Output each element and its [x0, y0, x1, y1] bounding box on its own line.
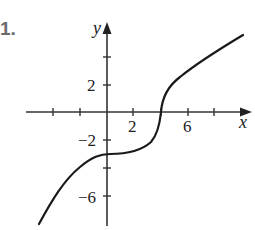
y-tick-label-neg2: −2 [78, 131, 96, 150]
y-tick-label-neg6: −6 [78, 188, 96, 207]
y-axis [103, 22, 112, 226]
y-axis-label: y [91, 18, 101, 38]
y-tick-label-2: 2 [87, 76, 96, 95]
x-axis [26, 108, 252, 117]
function-graph: y x 2 6 2 −2 −6 [0, 0, 255, 230]
x-tick-label-6: 6 [183, 117, 192, 136]
function-curve [39, 35, 243, 224]
y-axis-arrow-icon [103, 22, 112, 34]
x-tick-label-2: 2 [128, 117, 137, 136]
x-axis-label: x [238, 112, 247, 132]
